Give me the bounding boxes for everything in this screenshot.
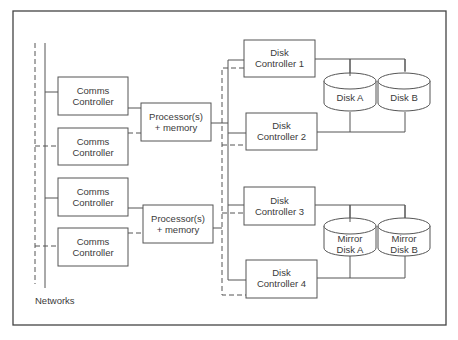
comms-controller-3: Comms Controller <box>58 186 128 208</box>
comms-controller-1: Comms Controller <box>58 85 128 107</box>
processor-1: Processor(s) + memory <box>141 111 211 133</box>
disk-b-label: Disk B <box>378 92 430 103</box>
disk-controller-3: Disk Controller 3 <box>244 195 315 217</box>
disk-controller-4: Disk Controller 4 <box>246 267 317 289</box>
comms-controller-2: Comms Controller <box>58 136 128 158</box>
redundant-system-diagram <box>0 0 458 340</box>
mirror-disk-b-label: Mirror Disk B <box>378 233 430 255</box>
disk-a-label: Disk A <box>324 92 376 103</box>
comms-controller-4: Comms Controller <box>58 236 128 258</box>
disk-controller-2: Disk Controller 2 <box>246 120 317 142</box>
processor-2: Processor(s) + memory <box>143 213 213 235</box>
mirror-disk-a-label: Mirror Disk A <box>324 233 376 255</box>
disk-bus-dashed <box>222 68 246 295</box>
disk-controller-1: Disk Controller 1 <box>244 47 315 69</box>
networks-label: Networks <box>35 295 75 306</box>
